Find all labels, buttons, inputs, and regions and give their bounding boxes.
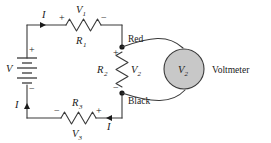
source-plus-sign: + — [29, 44, 35, 55]
r3-plus-sign: + — [96, 105, 102, 116]
svg-text:2: 2 — [185, 70, 189, 78]
circuit-svg: V + − I + − V 1 R 1 + − R 2 V 2 I − + R — [0, 0, 271, 143]
r2-plus-sign: + — [113, 47, 119, 58]
r2-minus-sign: − — [113, 82, 119, 93]
r3-minus-sign: − — [54, 105, 60, 116]
svg-text:R: R — [96, 64, 104, 75]
svg-text:1: 1 — [83, 10, 87, 18]
black-terminal-label: Black — [128, 96, 150, 106]
red-terminal-label: Red — [128, 34, 144, 44]
source-minus-sign: − — [29, 83, 35, 94]
svg-text:R: R — [71, 97, 79, 108]
battery-symbol — [17, 58, 37, 83]
svg-text:1: 1 — [83, 41, 87, 49]
svg-text:3: 3 — [78, 103, 83, 111]
voltage-label-v1: V 1 — [76, 4, 86, 18]
resistor-r3-symbol — [61, 112, 96, 124]
current-label-right: I — [106, 121, 111, 132]
voltage-label-v2: V 2 — [131, 64, 142, 78]
circuit-diagram: V + − I + − V 1 R 1 + − R 2 V 2 I − + R — [0, 0, 271, 143]
voltage-label-v3: V 3 — [72, 128, 83, 142]
current-arrow-left — [24, 103, 30, 109]
r1-minus-sign: − — [101, 12, 107, 23]
current-label-left: I — [14, 99, 19, 110]
resistor-label-r1: R 1 — [75, 35, 87, 49]
voltmeter-name-label: Voltmeter — [212, 65, 250, 75]
svg-text:3: 3 — [78, 134, 83, 142]
svg-text:2: 2 — [138, 70, 142, 78]
source-label-V: V — [6, 63, 14, 74]
svg-text:2: 2 — [104, 70, 108, 78]
r1-plus-sign: + — [59, 12, 65, 23]
resistor-r1-symbol — [66, 19, 101, 31]
current-arrow-top — [40, 22, 46, 28]
svg-text:R: R — [75, 35, 83, 46]
current-label-top: I — [41, 9, 46, 20]
resistor-label-r3: R 3 — [71, 97, 83, 111]
resistor-label-r2: R 2 — [96, 64, 108, 78]
